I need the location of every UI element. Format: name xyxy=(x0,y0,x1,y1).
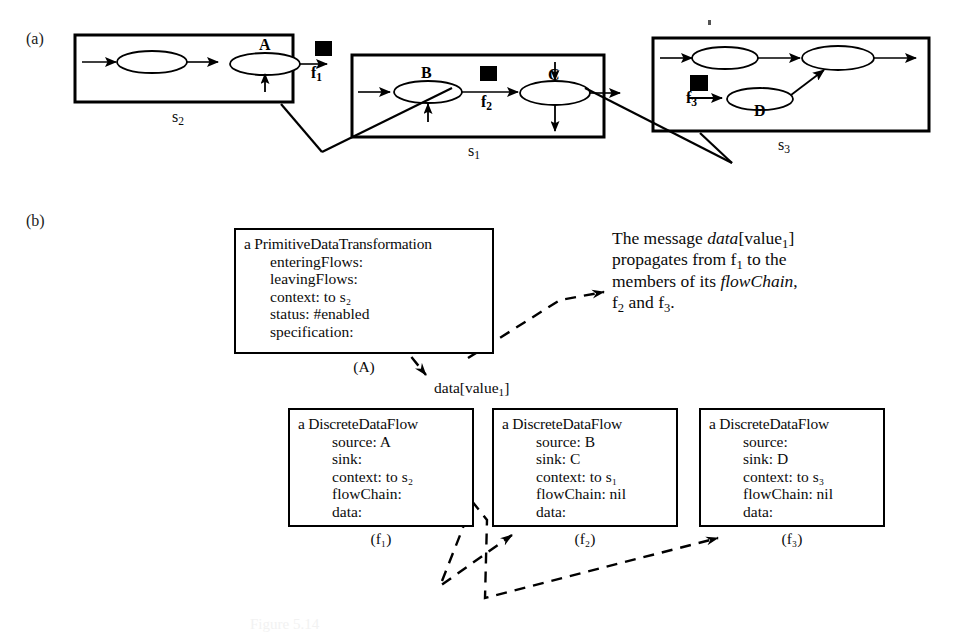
field-specification: specification: xyxy=(244,323,484,341)
object-box-flow-f1[interactable]: a DiscreteDataFlow source: A sink: conte… xyxy=(288,408,474,527)
field-source: source: A xyxy=(298,433,464,451)
note-line1-italic: data xyxy=(707,228,738,248)
field-sink: sink: C xyxy=(502,450,668,468)
object-box-f2-title: a DiscreteDataFlow xyxy=(502,415,668,433)
explanatory-note: The message data[value1] propagates from… xyxy=(612,228,932,313)
field-context: context: to s₂ xyxy=(298,468,464,486)
object-box-f2-fields: source: B sink: C context: to s₁ flowCha… xyxy=(502,433,668,521)
field-context: context: to s₃ xyxy=(709,468,875,486)
note-line4-c: . xyxy=(670,292,674,312)
note-line3-b: , xyxy=(793,271,797,291)
bottom-caption: Figure 5.14 xyxy=(250,616,319,633)
object-box-f3-fields: source: sink: D context: to s₃ flowChain… xyxy=(709,433,875,521)
field-sink: sink: xyxy=(298,450,464,468)
note-line1-b: [value xyxy=(738,228,782,248)
object-box-f2-caption: (f₂) xyxy=(492,530,678,548)
field-data: data: xyxy=(502,503,668,521)
message-label-close: ] xyxy=(504,379,509,396)
field-source: source: B xyxy=(502,433,668,451)
object-box-a-fields: enteringFlows: leavingFlows: context: to… xyxy=(244,253,484,341)
field-context: context: to s₂ xyxy=(244,288,484,306)
note-line2-a: propagates from f xyxy=(612,249,736,269)
object-box-f3-caption: (f₃) xyxy=(699,530,885,548)
object-box-f1-caption: (f₁) xyxy=(288,530,474,548)
field-data: data: xyxy=(298,503,464,521)
field-source: source: xyxy=(709,433,875,451)
field-data: data: xyxy=(709,503,875,521)
object-box-flow-f3[interactable]: a DiscreteDataFlow source: sink: D conte… xyxy=(699,408,885,527)
field-enteringflows: enteringFlows: xyxy=(244,253,484,271)
figure-page: (a) (b) xyxy=(0,0,956,634)
field-context: context: to s₁ xyxy=(502,468,668,486)
message-label-data-value: data[value1] xyxy=(434,379,509,397)
note-line2-b: to the xyxy=(743,249,787,269)
object-box-a-title: a PrimitiveDataTransformation xyxy=(244,235,484,253)
note-line-1: The message data[value1] xyxy=(612,228,932,249)
object-box-f1-fields: source: A sink: context: to s₂ flowChain… xyxy=(298,433,464,521)
note-line4-b: and f xyxy=(624,292,664,312)
note-line-3: members of its flowChain, xyxy=(612,271,932,292)
field-status: status: #enabled xyxy=(244,305,484,323)
note-line-4: f2 and f3. xyxy=(612,292,932,313)
field-flowchain: flowChain: nil xyxy=(502,485,668,503)
field-leavingflows: leavingFlows: xyxy=(244,270,484,288)
field-flowchain: flowChain: nil xyxy=(709,485,875,503)
object-box-f3-title: a DiscreteDataFlow xyxy=(709,415,875,433)
field-sink: sink: D xyxy=(709,450,875,468)
object-box-flow-f2[interactable]: a DiscreteDataFlow source: B sink: C con… xyxy=(492,408,678,527)
object-box-a-caption: (A) xyxy=(234,358,494,376)
object-box-f1-title: a DiscreteDataFlow xyxy=(298,415,464,433)
note-line1-c: ] xyxy=(788,228,794,248)
note-line3-a: members of its xyxy=(612,271,720,291)
object-box-primitive-data-transformation[interactable]: a PrimitiveDataTransformation enteringFl… xyxy=(234,228,494,354)
field-flowchain: flowChain: xyxy=(298,485,464,503)
note-line3-italic: flowChain xyxy=(720,271,793,291)
note-line1-a: The message xyxy=(612,228,707,248)
note-line-2: propagates from f1 to the xyxy=(612,249,932,270)
message-label-text: data[value xyxy=(434,379,499,396)
